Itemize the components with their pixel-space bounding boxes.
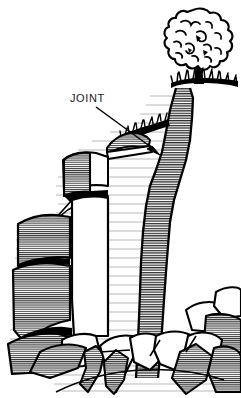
talus-block-11: [208, 346, 241, 392]
left-cliff-upper-face: [64, 153, 90, 196]
cliff-joint-diagram: JOINT: [0, 0, 241, 398]
joint-label: JOINT: [70, 92, 105, 104]
grass-top: [171, 68, 238, 88]
tree: [165, 9, 233, 84]
mid-ledge-front-edge: [72, 197, 108, 336]
diagram-canvas: JOINT: [0, 0, 241, 398]
